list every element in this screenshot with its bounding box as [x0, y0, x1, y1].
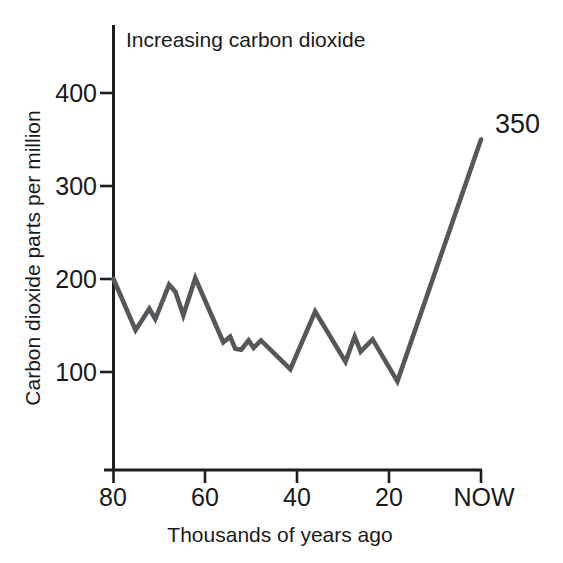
x-axis-ticks — [114, 470, 482, 483]
y-axis-title: Carbon dioxide parts per million — [21, 110, 44, 405]
x-axis-title: Thousands of years ago — [167, 523, 392, 546]
axes-group — [104, 25, 482, 470]
y-tick-label-100: 100 — [55, 358, 97, 386]
x-tick-label-80: 80 — [99, 483, 127, 511]
x-axis-tick-labels: 80 60 40 20 NOW — [99, 483, 515, 511]
annotation-350: 350 — [495, 109, 540, 139]
y-axis-ticks — [100, 93, 113, 372]
x-tick-label-20: 20 — [375, 483, 403, 511]
y-tick-label-400: 400 — [55, 79, 97, 107]
x-tick-label-40: 40 — [283, 483, 311, 511]
co2-data-line — [114, 140, 482, 382]
chart-figure: 400 300 200 100 80 60 40 20 NOW Increasi… — [0, 0, 563, 563]
x-tick-label-now: NOW — [453, 483, 515, 511]
co2-line-chart: 400 300 200 100 80 60 40 20 NOW Increasi… — [0, 0, 563, 563]
y-axis-tick-labels: 400 300 200 100 — [55, 79, 97, 386]
y-tick-label-200: 200 — [55, 265, 97, 293]
chart-title: Increasing carbon dioxide — [126, 28, 365, 51]
x-tick-label-60: 60 — [191, 483, 219, 511]
y-tick-label-300: 300 — [55, 172, 97, 200]
